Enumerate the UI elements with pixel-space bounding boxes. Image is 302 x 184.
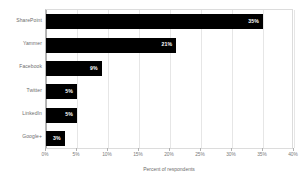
tick-label-35: 35% <box>257 153 267 158</box>
tick-label-0: 0% <box>42 153 49 158</box>
bar-google: 3% <box>46 131 65 146</box>
tick-label-30: 30% <box>226 153 236 158</box>
tick-label-15: 15% <box>133 153 143 158</box>
plot-area: 35%21%9%5%5%3% <box>45 9 293 149</box>
tick-mark-0 <box>45 148 46 151</box>
bar-value-label: 35% <box>248 19 263 24</box>
x-axis-title: Percent of respondents <box>45 167 293 172</box>
tick-mark-20 <box>169 148 170 151</box>
bar-value-label: 9% <box>90 66 102 71</box>
bar-row: 3% <box>46 131 292 146</box>
bar-chart: SharePointYammerFacebookTwitterLinkedInG… <box>0 0 302 184</box>
bar-row: 21% <box>46 38 292 53</box>
bar-facebook: 9% <box>46 61 102 76</box>
bar-value-label: 5% <box>65 89 77 94</box>
tick-mark-35 <box>262 148 263 151</box>
bar-value-label: 5% <box>65 112 77 117</box>
x-axis-ticks: 0%5%10%15%20%25%30%35%40% <box>45 151 293 163</box>
bar-linkedin: 5% <box>46 108 77 123</box>
bars: 35%21%9%5%5%3% <box>46 10 292 148</box>
bar-row: 5% <box>46 108 292 123</box>
tick-label-40: 40% <box>288 153 298 158</box>
category-label-linkedin: LinkedIn <box>0 111 42 116</box>
tick-label-25: 25% <box>195 153 205 158</box>
tick-mark-25 <box>200 148 201 151</box>
tick-mark-40 <box>293 148 294 151</box>
tick-label-20: 20% <box>164 153 174 158</box>
gridline-40 <box>294 10 295 148</box>
bar-row: 35% <box>46 14 292 29</box>
category-label-facebook: Facebook <box>0 64 42 69</box>
category-label-twitter: Twitter <box>0 88 42 93</box>
bar-sharepoint: 35% <box>46 14 263 29</box>
bar-twitter: 5% <box>46 84 77 99</box>
tick-mark-10 <box>107 148 108 151</box>
tick-mark-30 <box>231 148 232 151</box>
tick-label-5: 5% <box>73 153 80 158</box>
category-label-google: Google+ <box>0 134 42 139</box>
tick-label-10: 10% <box>102 153 112 158</box>
bar-row: 9% <box>46 61 292 76</box>
bar-value-label: 21% <box>162 42 177 47</box>
category-label-sharepoint: SharePoint <box>0 18 42 23</box>
category-label-yammer: Yammer <box>0 41 42 46</box>
bar-value-label: 3% <box>53 136 65 141</box>
tick-mark-5 <box>76 148 77 151</box>
tick-mark-15 <box>138 148 139 151</box>
bar-row: 5% <box>46 84 292 99</box>
bar-yammer: 21% <box>46 38 176 53</box>
category-axis: SharePointYammerFacebookTwitterLinkedInG… <box>0 9 42 149</box>
